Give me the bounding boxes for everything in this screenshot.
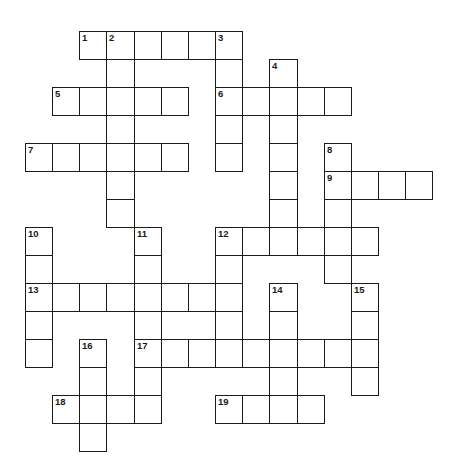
crossword-cell-r11-c8[interactable] [242, 339, 270, 368]
clue-number: 8 [327, 145, 332, 155]
crossword-cell-r7-c0[interactable]: 10 [25, 227, 53, 256]
crossword-cell-r13-c9[interactable] [269, 395, 298, 424]
crossword-cell-r7-c7[interactable]: 12 [215, 227, 243, 256]
crossword-cell-r4-c0[interactable]: 7 [25, 143, 53, 172]
crossword-cell-r2-c3[interactable] [106, 87, 135, 116]
crossword-cell-r10-c0[interactable] [25, 311, 53, 340]
crossword-cell-r7-c10[interactable] [297, 227, 325, 256]
crossword-cell-r11-c2[interactable]: 16 [79, 339, 107, 368]
crossword-cell-r9-c1[interactable] [52, 283, 80, 312]
crossword-cell-r11-c0[interactable] [25, 339, 53, 368]
crossword-cell-r10-c7[interactable] [215, 311, 243, 340]
crossword-cell-r0-c4[interactable] [134, 31, 162, 60]
crossword-cell-r0-c3[interactable]: 2 [106, 31, 135, 60]
clue-number: 17 [137, 341, 148, 351]
crossword-cell-r11-c7[interactable] [215, 339, 243, 368]
crossword-cell-r5-c12[interactable] [351, 171, 379, 200]
crossword-cell-r2-c1[interactable]: 5 [52, 87, 80, 116]
crossword-cell-r7-c8[interactable] [242, 227, 270, 256]
clue-number: 1 [82, 33, 87, 43]
clue-number: 9 [327, 173, 332, 183]
crossword-cell-r11-c11[interactable] [324, 339, 352, 368]
crossword-cell-r9-c0[interactable]: 13 [25, 283, 53, 312]
crossword-cell-r3-c9[interactable] [269, 115, 298, 144]
crossword-cell-r12-c12[interactable] [351, 367, 379, 396]
crossword-cell-r4-c4[interactable] [134, 143, 162, 172]
crossword-cell-r7-c11[interactable] [324, 227, 352, 256]
crossword-cell-r8-c11[interactable] [324, 255, 352, 284]
clue-number: 18 [55, 397, 66, 407]
crossword-cell-r6-c3[interactable] [106, 199, 135, 228]
crossword-cell-r0-c7[interactable]: 3 [215, 31, 243, 60]
crossword-cell-r1-c7[interactable] [215, 59, 243, 88]
crossword-cell-r5-c3[interactable] [106, 171, 135, 200]
crossword-cell-r8-c0[interactable] [25, 255, 53, 284]
crossword-cell-r9-c3[interactable] [106, 283, 135, 312]
crossword-cell-r3-c7[interactable] [215, 115, 243, 144]
crossword-cell-r12-c4[interactable] [134, 367, 162, 396]
crossword-cell-r2-c4[interactable] [134, 87, 162, 116]
crossword-cell-r4-c11[interactable]: 8 [324, 143, 352, 172]
crossword-cell-r13-c7[interactable]: 19 [215, 395, 243, 424]
crossword-cell-r9-c4[interactable] [134, 283, 162, 312]
crossword-cell-r12-c9[interactable] [269, 367, 298, 396]
crossword-cell-r6-c11[interactable] [324, 199, 352, 228]
crossword-cell-r1-c9[interactable]: 4 [269, 59, 298, 88]
crossword-cell-r4-c1[interactable] [52, 143, 80, 172]
crossword-cell-r11-c10[interactable] [297, 339, 325, 368]
crossword-cell-r9-c12[interactable]: 15 [351, 283, 379, 312]
crossword-cell-r2-c5[interactable] [161, 87, 189, 116]
crossword-cell-r10-c12[interactable] [351, 311, 379, 340]
crossword-cell-r4-c2[interactable] [79, 143, 107, 172]
crossword-cell-r13-c8[interactable] [242, 395, 270, 424]
crossword-cell-r11-c4[interactable]: 17 [134, 339, 162, 368]
crossword-cell-r9-c7[interactable] [215, 283, 243, 312]
crossword-cell-r4-c3[interactable] [106, 143, 135, 172]
crossword-cell-r10-c9[interactable] [269, 311, 298, 340]
crossword-cell-r13-c4[interactable] [134, 395, 162, 424]
crossword-cell-r2-c8[interactable] [242, 87, 270, 116]
crossword-cell-r5-c13[interactable] [378, 171, 406, 200]
crossword-cell-r13-c10[interactable] [297, 395, 325, 424]
clue-number: 3 [218, 33, 223, 43]
crossword-cell-r5-c14[interactable] [405, 171, 433, 200]
crossword-cell-r5-c9[interactable] [269, 171, 298, 200]
crossword-cell-r7-c4[interactable]: 11 [134, 227, 162, 256]
clue-number: 13 [28, 285, 39, 295]
crossword-cell-r11-c12[interactable] [351, 339, 379, 368]
crossword-cell-r9-c9[interactable]: 14 [269, 283, 298, 312]
clue-number: 7 [28, 145, 33, 155]
crossword-cell-r2-c11[interactable] [324, 87, 352, 116]
crossword-cell-r0-c6[interactable] [188, 31, 216, 60]
crossword-cell-r9-c5[interactable] [161, 283, 189, 312]
crossword-cell-r2-c10[interactable] [297, 87, 325, 116]
crossword-cell-r13-c3[interactable] [106, 395, 135, 424]
crossword-cell-r11-c9[interactable] [269, 339, 298, 368]
crossword-cell-r1-c3[interactable] [106, 59, 135, 88]
crossword-cell-r4-c7[interactable] [215, 143, 243, 172]
crossword-cell-r7-c12[interactable] [351, 227, 379, 256]
crossword-cell-r2-c2[interactable] [79, 87, 107, 116]
crossword-cell-r8-c4[interactable] [134, 255, 162, 284]
crossword-cell-r10-c4[interactable] [134, 311, 162, 340]
crossword-cell-r8-c7[interactable] [215, 255, 243, 284]
crossword-cell-r11-c6[interactable] [188, 339, 216, 368]
crossword-cell-r0-c2[interactable]: 1 [79, 31, 107, 60]
crossword-cell-r4-c9[interactable] [269, 143, 298, 172]
crossword-cell-r5-c11[interactable]: 9 [324, 171, 352, 200]
crossword-cell-r4-c5[interactable] [161, 143, 189, 172]
crossword-cell-r2-c7[interactable]: 6 [215, 87, 243, 116]
crossword-cell-r0-c5[interactable] [161, 31, 189, 60]
crossword-grid: 12364578910131117121415161819 [0, 0, 456, 475]
crossword-cell-r13-c1[interactable]: 18 [52, 395, 80, 424]
crossword-cell-r13-c2[interactable] [79, 395, 107, 424]
crossword-cell-r9-c6[interactable] [188, 283, 216, 312]
crossword-cell-r9-c2[interactable] [79, 283, 107, 312]
crossword-cell-r7-c9[interactable] [269, 227, 298, 256]
crossword-cell-r11-c5[interactable] [161, 339, 189, 368]
crossword-cell-r12-c2[interactable] [79, 367, 107, 396]
crossword-cell-r2-c9[interactable] [269, 87, 298, 116]
crossword-cell-r14-c2[interactable] [79, 423, 107, 452]
crossword-cell-r3-c3[interactable] [106, 115, 135, 144]
crossword-cell-r6-c9[interactable] [269, 199, 298, 228]
